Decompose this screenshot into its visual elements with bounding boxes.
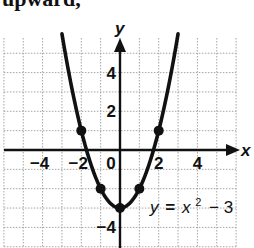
data-point	[96, 184, 106, 194]
x-axis-arrow-icon	[226, 144, 240, 156]
x-tick-label: 2	[154, 154, 163, 173]
x-tick-label: −4	[30, 154, 50, 173]
x-axis-label: x	[240, 141, 252, 160]
x-tick-label: 0	[106, 154, 115, 173]
equation-label: y = x 2 − 3	[149, 191, 233, 217]
y-tick-label: 2	[107, 102, 116, 121]
y-axis-label: y	[114, 19, 126, 38]
y-axis-arrow-icon	[114, 38, 126, 52]
y-tick-label: 4	[107, 64, 117, 83]
data-point	[154, 126, 164, 136]
data-point	[76, 126, 86, 136]
parabola-chart: x y −4−202442−4 y = x 2 − 3	[0, 0, 254, 248]
data-point	[134, 184, 144, 194]
data-point	[115, 203, 125, 213]
x-tick-label: 4	[193, 154, 203, 173]
y-tick-label: −4	[97, 218, 117, 237]
x-tick-label: −2	[69, 154, 88, 173]
